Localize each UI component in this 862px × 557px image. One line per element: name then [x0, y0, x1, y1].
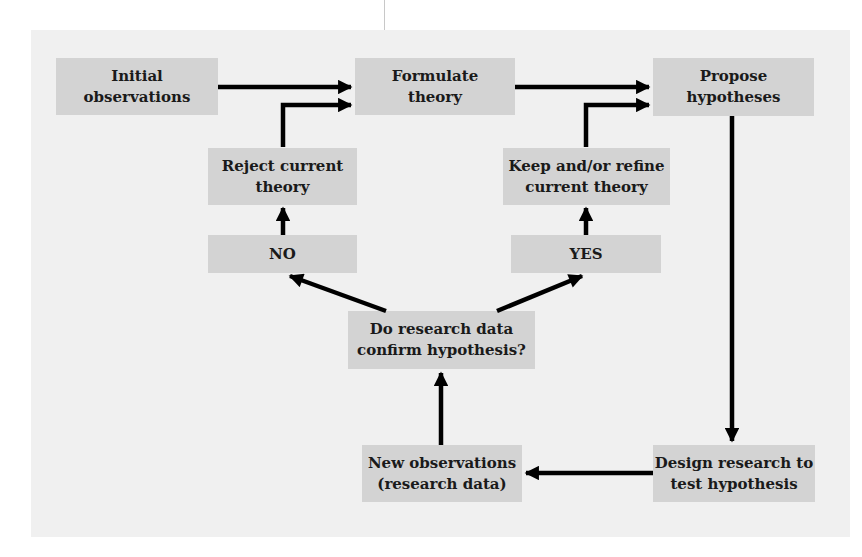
node-new-observations: New observations (research data) — [362, 445, 522, 502]
node-design-research: Design research to test hypothesis — [653, 445, 815, 502]
node-keep-refine-theory: Keep and/or refine current theory — [503, 148, 670, 205]
node-formulate-theory: Formulate theory — [355, 58, 515, 115]
node-label: NO — [269, 244, 296, 265]
node-propose-hypotheses: Propose hypotheses — [653, 58, 814, 116]
node-label: YES — [570, 244, 603, 265]
node-label: Keep and/or refine current theory — [508, 156, 664, 198]
node-label: Do research data confirm hypothesis? — [357, 319, 526, 361]
node-label: Propose hypotheses — [687, 66, 781, 108]
node-label: Initial observations — [84, 66, 191, 108]
node-label: Reject current theory — [222, 156, 344, 198]
node-label: New observations (research data) — [368, 453, 516, 495]
node-yes: YES — [511, 235, 661, 273]
node-confirm-question: Do research data confirm hypothesis? — [348, 311, 535, 369]
node-initial-observations: Initial observations — [56, 58, 218, 115]
page-divider-line — [384, 0, 385, 30]
node-label: Formulate theory — [392, 66, 478, 108]
node-label: Design research to test hypothesis — [655, 453, 814, 495]
node-reject-current-theory: Reject current theory — [208, 148, 357, 205]
node-no: NO — [208, 235, 357, 273]
